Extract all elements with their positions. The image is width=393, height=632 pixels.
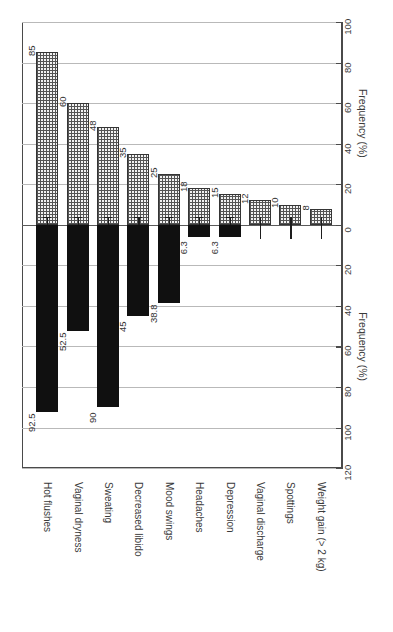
- gridline: [22, 468, 342, 469]
- category-label: Spottings: [285, 482, 295, 524]
- bar-lower: [219, 225, 241, 238]
- bar-value-label-upper: 18: [179, 182, 189, 193]
- bar-value-label-lower: 92.5: [27, 414, 37, 433]
- axis-tick-label: 120: [343, 465, 353, 481]
- bar-upper: [67, 103, 89, 225]
- bar-upper: [36, 52, 58, 224]
- error-bar-cap: [134, 217, 142, 218]
- value-axis-line: [342, 22, 343, 468]
- axis-tick-label: 60: [343, 103, 353, 114]
- error-bar: [260, 217, 261, 239]
- axis-tick-label: 80: [343, 62, 353, 73]
- bar-lower: [67, 225, 89, 331]
- bar-upper: [127, 154, 149, 225]
- bar-value-label-upper: 8: [301, 205, 311, 210]
- bar-value-label-lower: 6.3: [179, 242, 189, 255]
- error-bar: [169, 217, 170, 225]
- category-label: Hot flushes: [42, 482, 52, 532]
- bar-value-label-lower: 6.3: [210, 242, 220, 255]
- bar-value-label-upper: 10: [271, 198, 281, 209]
- error-bar: [290, 217, 291, 239]
- axis-tick-label: 60: [343, 346, 353, 357]
- error-bar: [138, 217, 139, 225]
- axis-tick-label: 40: [343, 305, 353, 316]
- error-bar-cap: [104, 217, 112, 218]
- axis-tick-label: 40: [343, 143, 353, 154]
- bar-lower: [127, 225, 149, 316]
- category-label: Depression: [225, 482, 235, 533]
- bar-value-label-lower: 38.8: [149, 305, 159, 324]
- bar-value-label-lower: 52.5: [58, 333, 68, 352]
- bar-value-label-upper: 85: [27, 46, 37, 57]
- bar-value-label-upper: 60: [58, 97, 68, 108]
- gridline: [22, 346, 342, 347]
- bar-value-label-upper: 35: [119, 147, 129, 158]
- category-label: Sweating: [103, 482, 113, 523]
- category-label: Decreased libido: [133, 482, 143, 557]
- category-label: Weight gain (> 2 kg): [316, 482, 326, 572]
- axis-tick-label: 0: [343, 227, 353, 232]
- bar-value-label-upper: 15: [210, 188, 220, 199]
- axis-tick-label: 100: [343, 19, 353, 35]
- error-bar-cap: [165, 217, 173, 218]
- category-label: Headaches: [194, 482, 204, 533]
- axis-tick: [336, 225, 343, 226]
- error-bar: [230, 217, 231, 225]
- error-bar: [321, 217, 322, 239]
- category-label: Vaginal dryness: [73, 482, 83, 552]
- bar-value-label-lower: 45: [119, 321, 129, 332]
- bar-value-label-lower: 90: [88, 413, 98, 424]
- error-bar-cap: [195, 217, 203, 218]
- axis-tick-label: 100: [343, 424, 353, 440]
- bar-lower: [36, 225, 58, 413]
- error-bar: [199, 217, 200, 225]
- axis-tick-label: 20: [343, 265, 353, 276]
- chart-canvas: 8592.56052.5489035452538.8186.3156.31210…: [0, 0, 393, 632]
- bar-upper: [97, 127, 119, 224]
- category-label: Mood swings: [164, 482, 174, 540]
- bar-value-label-upper: 25: [149, 167, 159, 178]
- gridline: [22, 387, 342, 388]
- gridline: [22, 63, 342, 64]
- error-bar: [78, 217, 79, 225]
- axis-tick-label: 20: [343, 184, 353, 195]
- error-bar: [47, 217, 48, 225]
- bar-lower: [158, 225, 180, 304]
- error-bar-cap: [226, 217, 234, 218]
- error-bar-cap: [43, 217, 51, 218]
- gridline: [22, 22, 342, 23]
- error-bar: [108, 217, 109, 225]
- bar-value-label-upper: 12: [240, 194, 250, 205]
- axis-tick-label: 80: [343, 386, 353, 397]
- bar-value-label-upper: 48: [88, 121, 98, 132]
- gridline: [22, 428, 342, 429]
- error-bar-cap: [74, 217, 82, 218]
- bar-lower: [188, 225, 210, 238]
- axis-title-upper: Frequency (%): [354, 22, 372, 225]
- axis-title-lower: Frequency (%): [354, 225, 372, 468]
- category-label: Vaginal discharge: [255, 482, 265, 561]
- bar-lower: [97, 225, 119, 408]
